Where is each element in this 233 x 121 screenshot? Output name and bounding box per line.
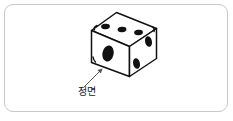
dice-illustration [0, 0, 233, 121]
front-face-caption: 정면 [70, 86, 104, 98]
die-body [92, 13, 157, 77]
annotation-arrow [84, 68, 103, 87]
leader-line [84, 70, 101, 87]
